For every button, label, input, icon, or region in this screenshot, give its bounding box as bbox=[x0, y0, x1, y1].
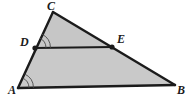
vertex-label-d: D bbox=[19, 35, 29, 49]
vertex-label-e: E bbox=[116, 32, 125, 46]
vertex-label-a: A bbox=[7, 83, 16, 97]
upper-triangle-CDE bbox=[35, 12, 112, 48]
vertex-label-c: C bbox=[47, 0, 56, 13]
vertex-label-b: B bbox=[176, 83, 185, 97]
point-marker-E bbox=[109, 44, 114, 49]
geometry-figure: A B C D E bbox=[0, 0, 187, 98]
point-marker-D bbox=[32, 45, 37, 50]
geometry-diagram-canvas: A B C D E bbox=[0, 0, 187, 98]
lower-trapezoid-DABE bbox=[18, 47, 175, 88]
segment-DE bbox=[35, 47, 112, 48]
